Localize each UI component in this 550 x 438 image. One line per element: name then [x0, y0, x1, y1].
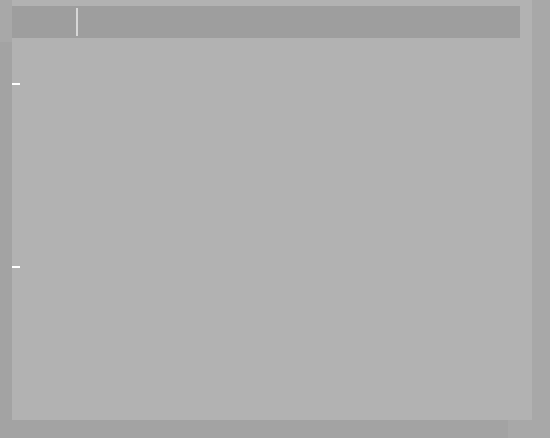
caption-dash-bottom	[12, 266, 20, 268]
header-divider	[76, 8, 78, 36]
caption-dash-top	[12, 83, 20, 85]
header-band	[12, 6, 520, 38]
page-card-front	[12, 0, 532, 420]
